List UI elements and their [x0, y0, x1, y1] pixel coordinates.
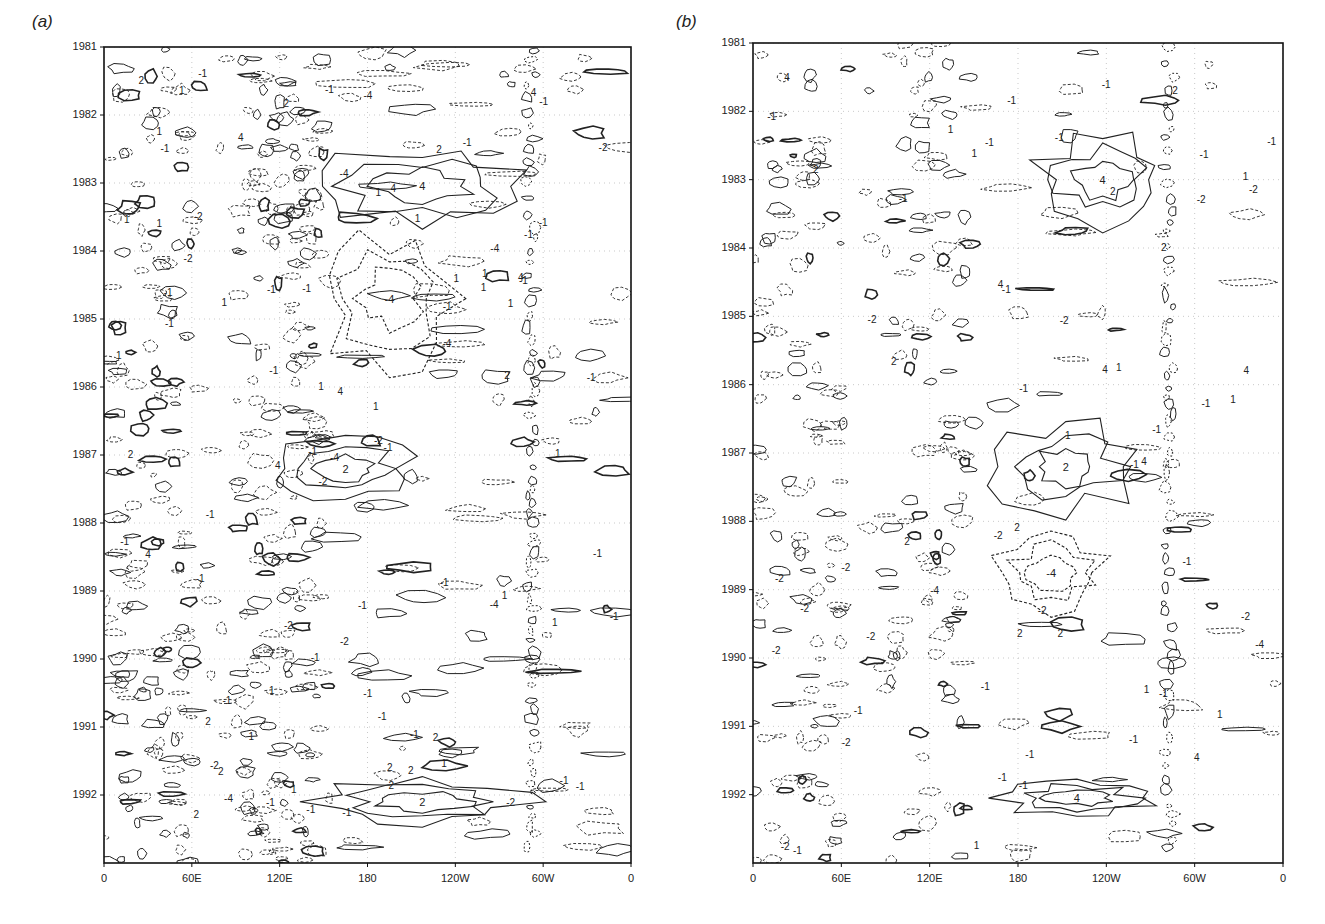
y-tick-label: 1991: [706, 719, 746, 731]
svg-text:-1: -1: [985, 137, 994, 148]
svg-text:-4: -4: [1255, 639, 1264, 650]
svg-text:2: 2: [1172, 85, 1178, 96]
svg-text:-1: -1: [1007, 95, 1016, 106]
svg-text:-1: -1: [767, 111, 776, 122]
svg-text:-2: -2: [1249, 184, 1258, 195]
svg-text:-1: -1: [854, 705, 863, 716]
svg-text:1: 1: [1217, 709, 1223, 720]
svg-text:1: 1: [948, 124, 954, 135]
x-tick-label: 0: [1263, 872, 1303, 884]
svg-text:-2: -2: [775, 573, 784, 584]
svg-text:4: 4: [1100, 174, 1106, 186]
svg-text:4: 4: [1194, 752, 1200, 763]
contour-plot-b: 424-441-441-1212-1-11-1-221-1-1-2-22-1-2…: [0, 0, 1325, 924]
svg-text:-2: -2: [1241, 611, 1250, 622]
x-tick-label: 60E: [821, 872, 861, 884]
x-tick-label: 0: [733, 872, 773, 884]
svg-text:-4: -4: [1046, 567, 1056, 579]
y-tick-label: 1990: [706, 651, 746, 663]
svg-text:-1: -1: [1182, 556, 1191, 567]
svg-text:1: 1: [1116, 362, 1122, 373]
svg-text:4: 4: [784, 72, 790, 83]
svg-text:-1: -1: [1267, 136, 1276, 147]
svg-text:2: 2: [1014, 522, 1020, 533]
svg-text:2: 2: [904, 536, 910, 547]
svg-text:-2: -2: [842, 737, 851, 748]
x-tick-label: 120W: [1086, 872, 1126, 884]
svg-text:-1: -1: [1200, 149, 1209, 160]
y-tick-label: 1984: [706, 241, 746, 253]
svg-text:-2: -2: [866, 631, 875, 642]
svg-text:-2: -2: [841, 562, 850, 573]
svg-text:4: 4: [1243, 365, 1249, 376]
svg-text:1: 1: [1243, 171, 1249, 182]
svg-text:-2: -2: [1060, 315, 1069, 326]
svg-text:-2: -2: [1197, 194, 1206, 205]
svg-text:-4: -4: [930, 585, 939, 596]
svg-text:2: 2: [1161, 242, 1167, 253]
y-tick-label: 1985: [706, 309, 746, 321]
svg-text:-1: -1: [1152, 424, 1161, 435]
svg-text:2: 2: [1110, 186, 1116, 197]
x-tick-label: 180: [998, 872, 1038, 884]
panel-b: (b) 424-441-441-1212-1-11-1-221-1-1-2-22…: [0, 0, 1325, 924]
svg-text:-2: -2: [800, 603, 809, 614]
svg-text:1: 1: [971, 148, 977, 159]
svg-text:-1: -1: [981, 681, 990, 692]
svg-text:-1: -1: [998, 772, 1007, 783]
y-tick-label: 1981: [706, 36, 746, 48]
svg-text:-1: -1: [1202, 398, 1211, 409]
svg-text:-1: -1: [1019, 383, 1028, 394]
svg-text:-1: -1: [1130, 459, 1139, 470]
svg-text:-1: -1: [1102, 79, 1111, 90]
svg-text:-1: -1: [899, 193, 908, 204]
y-tick-label: 1988: [706, 514, 746, 526]
svg-text:1: 1: [1144, 684, 1150, 695]
svg-text:-1: -1: [793, 845, 802, 856]
svg-text:-1: -1: [1025, 749, 1034, 760]
svg-text:4: 4: [1141, 456, 1147, 467]
svg-text:4: 4: [1074, 792, 1080, 804]
svg-text:-2: -2: [994, 530, 1003, 541]
svg-text:-2: -2: [772, 645, 781, 656]
x-tick-label: 60W: [1175, 872, 1215, 884]
y-tick-label: 1983: [706, 173, 746, 185]
svg-text:-1: -1: [1019, 780, 1028, 791]
svg-text:4: 4: [998, 279, 1004, 290]
svg-text:2: 2: [1063, 461, 1069, 473]
svg-text:-1: -1: [1159, 688, 1168, 699]
y-tick-label: 1989: [706, 583, 746, 595]
svg-text:4: 4: [1102, 364, 1108, 375]
x-tick-label: 120E: [910, 872, 950, 884]
contours: 424-441-441-1212-1-11-1-221-1-1-2-22-1-2…: [742, 39, 1288, 866]
svg-text:2: 2: [891, 356, 897, 367]
y-tick-label: 1992: [706, 788, 746, 800]
svg-text:1: 1: [1065, 430, 1071, 441]
svg-text:2: 2: [813, 164, 819, 175]
svg-text:1: 1: [974, 840, 980, 851]
y-tick-label: 1982: [706, 104, 746, 116]
svg-text:2: 2: [1017, 628, 1023, 639]
y-tick-label: 1987: [706, 446, 746, 458]
y-tick-label: 1986: [706, 378, 746, 390]
svg-text:-1: -1: [1055, 132, 1064, 143]
svg-text:-2: -2: [781, 841, 790, 852]
svg-text:-1: -1: [1129, 734, 1138, 745]
svg-text:1: 1: [1230, 394, 1236, 405]
svg-text:-2: -2: [1038, 605, 1047, 616]
svg-text:2: 2: [1058, 628, 1064, 639]
svg-text:-2: -2: [868, 314, 877, 325]
